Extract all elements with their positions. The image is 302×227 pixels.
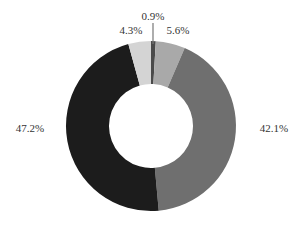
slice-label: 42.1% [260,122,288,134]
slice-label: 4.3% [120,24,143,36]
slice-label: 47.2% [16,122,44,134]
donut-chart: 0.9%5.6%42.1%47.2%4.3% [0,0,302,227]
donut-slices [66,41,236,211]
slice-label: 5.6% [167,24,190,36]
slice-label: 0.9% [142,10,165,22]
